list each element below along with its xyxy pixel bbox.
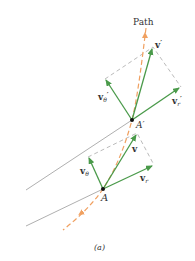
label-A: A xyxy=(100,192,108,203)
velocity-components-diagram: Path v′ vθ′ vr′ A′ v vθ vr A (a) xyxy=(0,0,195,261)
vector-v-theta-prime xyxy=(106,80,132,120)
radial-line-A xyxy=(26,189,103,226)
label-v-theta: vθ xyxy=(79,166,89,177)
label-v: v xyxy=(131,144,138,154)
label-v-r-prime: vr′ xyxy=(171,94,182,107)
label-A-prime: A′ xyxy=(135,120,145,130)
point-A-prime xyxy=(130,118,134,122)
vector-v-prime xyxy=(132,49,152,120)
label-v-r: vr xyxy=(139,173,149,184)
radial-line-A-prime xyxy=(26,120,132,190)
figure-caption: (a) xyxy=(94,243,105,252)
label-v-theta-prime: vθ′ xyxy=(97,90,109,103)
point-A xyxy=(101,187,105,191)
diagram-svg: Path v′ vθ′ vr′ A′ v vθ vr A (a) xyxy=(0,0,195,261)
label-v-prime: v′ xyxy=(154,38,162,50)
path-label: Path xyxy=(133,17,154,27)
vector-v-theta xyxy=(89,158,103,189)
